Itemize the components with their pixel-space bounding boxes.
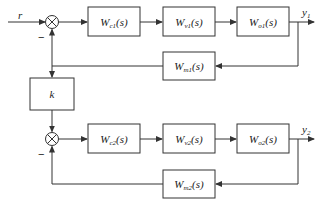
minus-sign-1: −	[38, 31, 44, 43]
summing-junction-1	[46, 16, 59, 29]
input-label-r: r	[18, 9, 23, 21]
block-diagram: r − Wc1(s) Wv1(s) Wo1(s) y1 Wm1(s) k − W…	[0, 0, 321, 207]
output-label-y2: y2	[301, 123, 311, 137]
summing-junction-2	[46, 133, 59, 146]
output-label-y1: y1	[301, 6, 310, 20]
minus-sign-2: −	[38, 148, 44, 160]
